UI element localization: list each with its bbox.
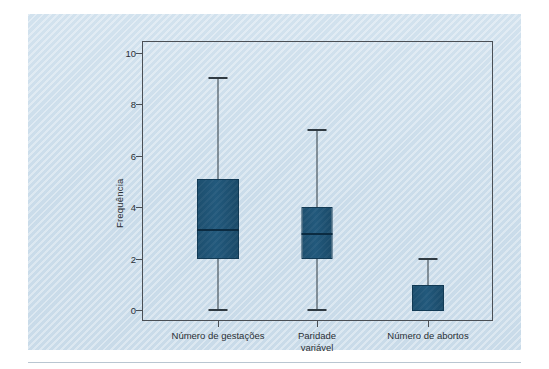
whisker-upper-line [218, 78, 219, 179]
whisker-upper-cap [209, 77, 228, 79]
y-tick-label: 10 [110, 48, 136, 59]
whisker-lower-cap [308, 309, 327, 311]
box-iqr [412, 285, 444, 311]
whisker-upper-line [428, 259, 429, 285]
page-divider-rule [28, 362, 521, 363]
figure-panel: Frequência 0 2 4 6 8 10 [28, 14, 521, 350]
y-tick-mark [136, 53, 142, 54]
whisker-upper-line [317, 130, 318, 207]
plot-frame [142, 41, 493, 321]
y-tick-label: 8 [110, 99, 136, 110]
median-line [302, 233, 333, 235]
y-tick-label: 2 [110, 254, 136, 265]
x-axis-label-numero-de-abortos: Número de abortos [363, 330, 493, 342]
y-tick-mark [136, 104, 142, 105]
x-axis-label-line: variável [301, 342, 334, 353]
x-tick-mark [428, 321, 429, 327]
x-tick-mark [317, 321, 318, 327]
x-axis-label-line: Número de abortos [387, 330, 468, 341]
y-tick-mark [136, 207, 142, 208]
x-tick-mark [218, 321, 219, 327]
whisker-upper-cap [308, 129, 327, 131]
y-tick-label: 0 [110, 305, 136, 316]
x-axis-label-line: Número de gestações [172, 330, 265, 341]
whisker-lower-line [317, 259, 318, 310]
y-tick-label: 4 [110, 202, 136, 213]
y-tick-label: 6 [110, 151, 136, 162]
median-line [197, 229, 239, 231]
whisker-upper-cap [419, 258, 438, 260]
y-tick-mark [136, 156, 142, 157]
y-tick-mark [136, 310, 142, 311]
whisker-lower-line [218, 259, 219, 310]
x-axis-label-line: Paridade [298, 330, 336, 341]
whisker-lower-cap [209, 309, 228, 311]
box-iqr [197, 179, 239, 259]
y-tick-mark [136, 259, 142, 260]
